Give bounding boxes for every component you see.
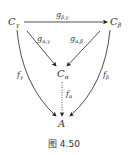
figure-caption: 图 4.50 [48,139,80,149]
svg-text:gβ,γ: gβ,γ [56,10,69,21]
svg-text:fα: fα [65,89,73,99]
svg-text:gα,γ: gα,γ [37,34,50,45]
arrow-g-beta-gamma: gβ,γ [24,10,107,22]
commutative-diagram: Cγ Cβ Cα A gβ,γ gα,γ gα,β fγ fβ fα 图 4 [0,0,129,155]
node-c-beta: Cβ [110,16,122,29]
svg-text:Cβ: Cβ [110,16,122,29]
svg-text:Cα: Cα [57,68,69,80]
svg-text:fβ: fβ [102,70,109,81]
arrow-g-alpha-gamma: gα,γ [27,31,56,66]
node-a: A [57,118,65,129]
node-c-alpha: Cα [57,68,69,80]
arrow-f-alpha: fα [62,82,73,116]
arrow-g-alpha-beta: gα,β [67,31,100,66]
svg-text:Cγ: Cγ [8,16,20,29]
node-c-gamma: Cγ [8,16,20,29]
svg-text:fγ: fγ [16,70,23,81]
svg-text:A: A [57,118,65,129]
svg-text:gα,β: gα,β [70,34,83,45]
